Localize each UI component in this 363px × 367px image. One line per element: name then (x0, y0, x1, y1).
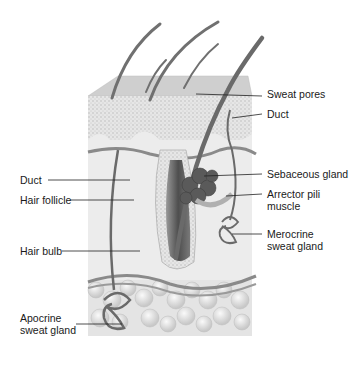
label-sweat-pores: Sweat pores (267, 88, 325, 100)
skin-diagram: Sweat pores Duct Sebaceous gland Arrecto… (0, 0, 363, 367)
label-sebaceous-gland: Sebaceous gland (267, 168, 348, 180)
label-duct-right: Duct (267, 108, 289, 120)
label-apocrine-gland: Apocrine sweat gland (20, 312, 76, 336)
label-hair-follicle: Hair follicle (20, 194, 71, 206)
label-arrector-pili: Arrector pili muscle (267, 188, 320, 212)
label-hair-bulb: Hair bulb (20, 245, 62, 257)
label-duct-left: Duct (20, 174, 42, 186)
label-merocrine-gland: Merocrine sweat gland (267, 228, 323, 252)
